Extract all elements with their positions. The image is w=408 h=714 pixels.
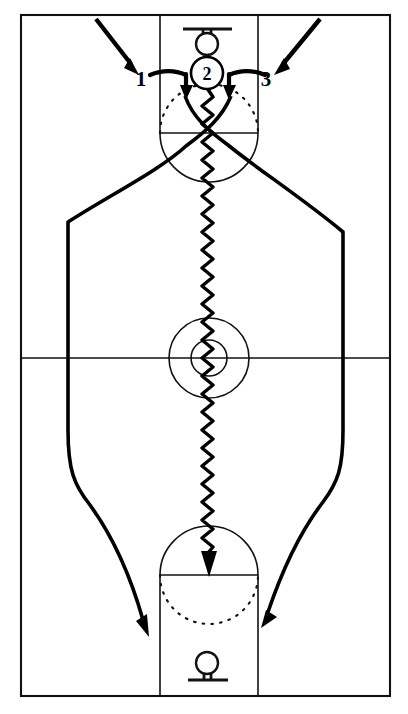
player-marker-2[interactable]: 2 (191, 57, 223, 89)
player-marker-2-label: 2 (203, 64, 212, 84)
basketball-court-diagram: 2 1 3 (0, 0, 408, 714)
play-diagram-page: 2 1 3 (0, 0, 408, 714)
label-1: 1 (136, 67, 147, 91)
label-3: 3 (261, 67, 272, 91)
